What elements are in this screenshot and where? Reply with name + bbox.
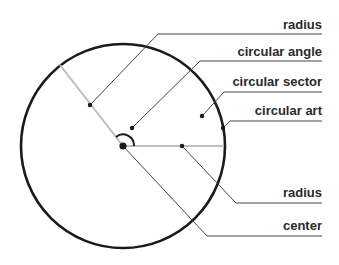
label-circular-angle: circular angle xyxy=(237,44,322,59)
circle-parts-diagram: radius circular angle circular sector ci… xyxy=(0,0,339,265)
label-center: center xyxy=(283,218,322,233)
leader-circular-arc xyxy=(223,121,322,128)
center-dot xyxy=(119,142,126,149)
label-circular-sector: circular sector xyxy=(232,74,322,89)
dot-radius-bottom xyxy=(180,144,184,148)
dot-radius-top xyxy=(88,103,92,107)
label-radius-bottom: radius xyxy=(283,185,322,200)
dot-circular-sector xyxy=(200,114,204,118)
dot-circular-arc xyxy=(221,126,225,130)
label-circular-arc: circular art xyxy=(255,103,323,118)
label-radius-top: radius xyxy=(283,17,322,32)
dot-circular-angle xyxy=(130,126,134,130)
